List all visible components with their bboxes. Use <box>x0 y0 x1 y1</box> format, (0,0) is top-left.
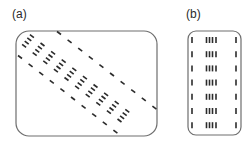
upper-diagonal-dash <box>121 81 125 84</box>
band-dash <box>94 85 98 88</box>
panel-a-diagonal-matrix <box>16 31 157 136</box>
band-dash <box>22 44 26 47</box>
band-dash <box>27 38 31 41</box>
upper-diagonal-dash <box>68 40 72 43</box>
band-dash <box>91 88 95 91</box>
upper-diagonal-dash <box>99 65 103 68</box>
lower-diagonal-dash <box>60 89 64 92</box>
lower-diagonal-dash <box>92 114 96 117</box>
band-dash <box>38 46 42 49</box>
band-dash <box>78 83 82 86</box>
band-dash <box>80 79 84 82</box>
upper-diagonal-dash <box>152 106 156 109</box>
band-dash <box>67 74 71 77</box>
upper-diagonal-dash <box>110 73 114 76</box>
upper-diagonal-dash <box>142 98 146 101</box>
lower-diagonal-dash <box>103 122 107 125</box>
band-dash <box>46 58 50 61</box>
lower-diagonal-dash <box>82 105 86 108</box>
panel-b-frame <box>188 31 241 135</box>
diagram-canvas <box>0 0 252 143</box>
band-dash <box>35 49 39 52</box>
lower-diagonal-dash <box>39 72 43 75</box>
lower-diagonal-dash <box>18 56 22 59</box>
band-dash <box>99 99 103 102</box>
lower-diagonal-dash <box>29 64 33 67</box>
panel-a-frame <box>16 31 157 136</box>
band-dash <box>59 63 63 66</box>
band-dash <box>107 111 111 114</box>
upper-diagonal-dash <box>131 90 135 93</box>
band-dash <box>86 94 90 97</box>
band-dash <box>88 91 92 94</box>
band-dash <box>96 102 100 105</box>
upper-diagonal-dash <box>57 32 61 35</box>
band-dash <box>120 116 124 119</box>
band-dash <box>70 71 74 74</box>
band-dash <box>30 35 34 38</box>
band-dash <box>112 104 116 107</box>
lower-diagonal-dash <box>113 130 117 133</box>
lower-diagonal-dash <box>50 80 54 83</box>
band-dash <box>125 109 129 112</box>
band-dash <box>57 66 61 69</box>
band-dash <box>62 60 66 63</box>
band-dash <box>72 68 76 71</box>
band-dash <box>43 61 47 64</box>
band-dash <box>118 119 122 122</box>
band-dash <box>104 93 108 96</box>
band-dash <box>33 53 37 56</box>
band-dash <box>123 113 127 116</box>
band-dash <box>83 76 87 79</box>
band-dash <box>75 86 79 89</box>
lower-diagonal-dash <box>71 97 75 100</box>
band-dash <box>51 51 55 54</box>
band-dash <box>115 101 119 104</box>
upper-diagonal-dash <box>89 56 93 59</box>
band-dash <box>110 108 114 111</box>
band-dash <box>49 55 53 58</box>
band-dash <box>25 41 29 44</box>
band-dash <box>54 69 58 72</box>
panel-b-column-matrix <box>188 31 241 135</box>
band-dash <box>65 78 69 81</box>
upper-diagonal-dash <box>78 48 82 51</box>
band-dash <box>41 43 45 46</box>
band-dash <box>102 96 106 99</box>
